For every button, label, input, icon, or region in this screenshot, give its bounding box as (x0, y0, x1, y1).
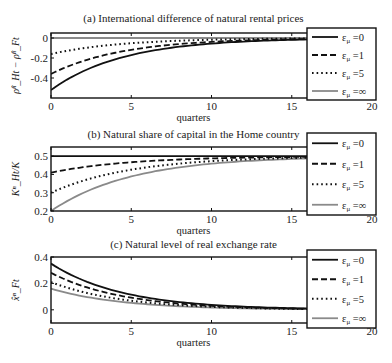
x-axis-label: quarters (177, 337, 211, 348)
x-tick-label: 5 (129, 213, 135, 225)
y-tick-label: 0.5 (34, 150, 48, 162)
panel-title: (b) Natural share of capital in the Home… (88, 128, 300, 141)
legend: εμ =0εμ =1εμ =5εμ =∞ (307, 250, 376, 328)
y-tick-label: 0.4 (34, 251, 48, 263)
x-tick-label: 15 (286, 325, 298, 337)
y-tick-label: 0 (43, 32, 49, 44)
x-tick-label: 10 (206, 100, 218, 112)
y-tick-label: -0.2 (31, 52, 48, 64)
y-tick-label: 0 (43, 304, 49, 316)
x-tick-label: 0 (48, 213, 54, 225)
x-tick-label: 15 (286, 213, 298, 225)
x-tick-label: 5 (129, 325, 135, 337)
y-tick-label: -0.4 (31, 72, 49, 84)
y-axis-label: Kⁿ_Ht/K (10, 161, 21, 198)
figure: (a) International difference of natural … (0, 0, 392, 363)
y-tick-label: 0.2 (34, 205, 48, 217)
legend: εμ =0εμ =1εμ =5εμ =∞ (307, 28, 376, 100)
x-tick-label: 20 (367, 100, 379, 112)
legend: εμ =0εμ =1εμ =5εμ =∞ (307, 133, 376, 215)
x-tick-label: 15 (286, 100, 298, 112)
y-tick-label: 0.2 (34, 277, 48, 289)
x-axis-label: quarters (177, 112, 211, 123)
x-tick-label: 10 (206, 213, 218, 225)
x-tick-label: 10 (206, 325, 218, 337)
x-tick-label: 0 (48, 100, 54, 112)
x-tick-label: 0 (48, 325, 54, 337)
y-axis-label: ρ̂ⁿ_Ht − ρ̂ⁿ_Ft (10, 37, 21, 95)
x-tick-label: 5 (129, 100, 135, 112)
panel-c: (c) Natural level of real exchange rate0… (10, 238, 378, 348)
panel-title: (a) International difference of natural … (83, 12, 303, 25)
panel-title: (c) Natural level of real exchange rate (110, 238, 277, 251)
panel-a: (a) International difference of natural … (10, 12, 378, 123)
x-axis-label: quarters (177, 225, 211, 236)
y-axis-label: x̂ⁿ_Ft (10, 279, 21, 302)
y-tick-label: 0.3 (34, 187, 48, 199)
y-tick-label: 0.4 (34, 168, 48, 180)
panel-b: (b) Natural share of capital in the Home… (10, 128, 378, 236)
